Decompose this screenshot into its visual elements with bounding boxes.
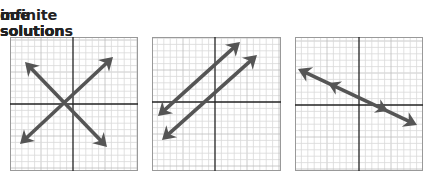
coordinate-grid bbox=[152, 37, 281, 171]
coordinate-grid bbox=[10, 37, 138, 171]
grid-svg bbox=[10, 37, 138, 171]
coordinate-grid bbox=[295, 37, 423, 171]
grid-svg bbox=[152, 37, 281, 171]
grid-svg bbox=[295, 37, 423, 171]
